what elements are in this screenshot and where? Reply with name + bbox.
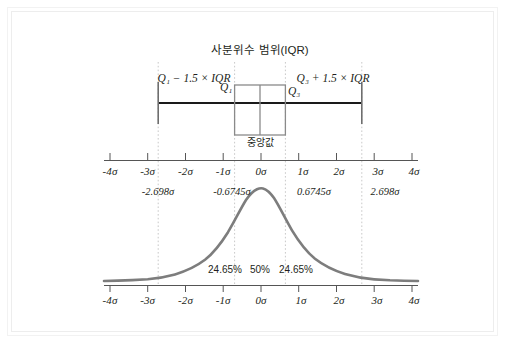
upper-axis-tick-label--4: -4σ <box>103 165 118 177</box>
q3-value-label: 0.6745σ <box>297 186 331 197</box>
figure-canvas: 사분위수 범위(IQR) Q₁ − 1.5 × IQR Q₃ + 1.5 × I… <box>0 0 507 345</box>
lower-axis-tick-label-1: 1σ <box>295 294 306 306</box>
right-quartile-area-label: 24.65% <box>279 264 313 275</box>
upper-axis-tick-label--2: -2σ <box>178 165 193 177</box>
upper-axis-tick-label-1: 1σ <box>297 165 308 177</box>
interquartile-area-label: 50% <box>250 264 270 275</box>
upper-axis-tick-label-4: 4σ <box>408 165 419 177</box>
lower-axis-graphics <box>104 286 418 293</box>
lower-axis-tick-label-4: 4σ <box>408 294 419 306</box>
upper-axis-tick-label-0: 0σ <box>255 165 266 177</box>
median-label: 중앙값 <box>247 134 274 149</box>
lower-axis-tick-label--1: -1σ <box>216 294 231 306</box>
left-quartile-area-label: 24.65% <box>208 264 242 275</box>
upper-axis-tick-label-3: 3σ <box>372 165 383 177</box>
q3-label: Q₃ <box>288 85 300 97</box>
lower-axis-tick-label--4: -4σ <box>103 294 118 306</box>
q1-label: Q₁ <box>220 81 232 93</box>
lower-fence-value-label: -2.698σ <box>142 186 174 197</box>
lower-axis-tick-label--2: -2σ <box>178 294 193 306</box>
lower-axis-tick-label-2: 2σ <box>333 294 344 306</box>
boxplot <box>158 82 362 135</box>
upper-axis-tick-label--3: -3σ <box>140 165 155 177</box>
upper-fence-value-label: 2.698σ <box>371 186 400 197</box>
q1-value-label: -0.6745σ <box>213 186 251 197</box>
lower-axis-tick-label-3: 3σ <box>371 294 382 306</box>
upper-fence-formula-label: Q₃ + 1.5 × IQR <box>297 72 370 84</box>
upper-axis-tick-label--1: -1σ <box>216 165 231 177</box>
lower-axis-tick-label--3: -3σ <box>140 294 155 306</box>
lower-axis-tick-label-0: 0σ <box>255 294 266 306</box>
upper-axis-tick-label-2: 2σ <box>333 165 344 177</box>
chart-title: 사분위수 범위(IQR) <box>211 41 308 57</box>
upper-axis-graphics <box>104 153 418 161</box>
